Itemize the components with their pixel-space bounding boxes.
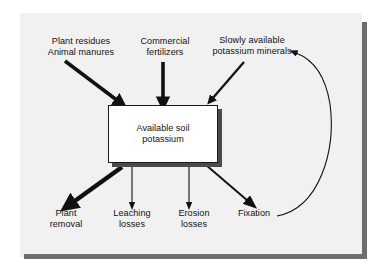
label-line-1: Slowly available <box>200 35 304 46</box>
label-line-1: Commercial <box>127 36 203 47</box>
label-plant-removal: Plant removal <box>38 208 94 229</box>
label-slowly-available-potassium-minerals: Slowly available potassium minerals <box>200 35 304 56</box>
label-line-1: Leaching <box>104 208 160 219</box>
potassium-cycle-figure: Plant residues Animal manures Commercial… <box>0 0 378 275</box>
central-box-label: Available soil potassium <box>137 123 190 146</box>
arrow-plant-removal <box>72 167 122 203</box>
label-erosion-losses: Erosion losses <box>167 208 221 229</box>
label-line-1: Plant residues <box>32 36 130 47</box>
label-line-2: removal <box>38 219 94 230</box>
label-line-1: Fixation <box>228 208 280 219</box>
label-line-2: Animal manures <box>32 47 130 58</box>
arrow-fixation <box>206 165 248 201</box>
central-box-line-1: Available soil <box>137 123 190 134</box>
label-line-2: losses <box>104 219 160 230</box>
label-leaching-losses: Leaching losses <box>104 208 160 229</box>
label-line-2: potassium minerals <box>200 46 304 57</box>
label-commercial-fertilizers: Commercial fertilizers <box>127 36 203 57</box>
label-line-1: Erosion <box>167 208 221 219</box>
arrow-plant-residues <box>65 61 118 101</box>
central-box-line-2: potassium <box>137 134 190 145</box>
arrow-slowly-available-minerals <box>212 62 244 99</box>
arrow-fixation-feedback-curve <box>277 53 331 216</box>
label-line-2: fertilizers <box>127 47 203 58</box>
label-line-2: losses <box>167 219 221 230</box>
label-fixation: Fixation <box>228 208 280 219</box>
label-line-1: Plant <box>38 208 94 219</box>
label-plant-residues-animal-manures: Plant residues Animal manures <box>32 36 130 57</box>
central-box-available-soil-potassium: Available soil potassium <box>108 105 218 163</box>
